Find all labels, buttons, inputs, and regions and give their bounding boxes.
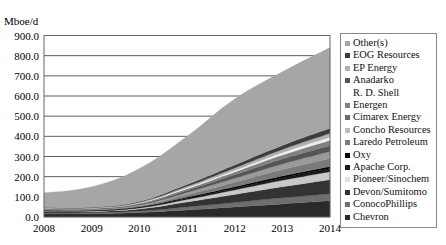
legend-swatch-icon xyxy=(345,215,350,220)
legend-label: Devon/Sumitomo xyxy=(353,186,427,198)
x-axis-ticks: 2008200920102011201220132014 xyxy=(33,222,342,234)
legend-swatch-icon xyxy=(345,78,350,83)
y-tick-label: 800.0 xyxy=(14,50,39,62)
legend-label: Other(s) xyxy=(353,37,388,49)
y-tick-label: 300.0 xyxy=(14,151,39,163)
x-tick-label: 2008 xyxy=(33,222,56,234)
y-tick-label: 500.0 xyxy=(14,110,39,122)
legend-swatch-icon xyxy=(345,190,350,195)
legend-item: Chevron xyxy=(345,211,436,223)
legend-swatch-icon xyxy=(345,140,350,145)
legend-swatch-icon xyxy=(345,53,350,58)
y-tick-label: 400.0 xyxy=(14,130,39,142)
legend-item: Other(s) xyxy=(345,37,436,49)
legend-item: Laredo Petroleum xyxy=(345,136,436,148)
legend-swatch-icon xyxy=(345,202,350,207)
area-series xyxy=(44,48,330,217)
x-tick-label: 2013 xyxy=(271,222,294,234)
legend-item: Apache Corp. xyxy=(345,161,436,173)
legend-item: Oxy xyxy=(345,149,436,161)
legend-item: EP Energy xyxy=(345,62,436,74)
legend-item: EOG Resources xyxy=(345,49,436,61)
legend-swatch-icon xyxy=(345,66,350,71)
legend-label: EOG Resources xyxy=(353,49,420,61)
x-tick-label: 2011 xyxy=(176,222,198,234)
legend-swatch-icon xyxy=(345,153,350,158)
legend-item: Concho Resources xyxy=(345,124,436,136)
legend-swatch-icon xyxy=(345,165,350,170)
legend-swatch-icon xyxy=(345,103,350,108)
y-tick-label: 900.0 xyxy=(14,30,39,42)
x-tick-label: 2012 xyxy=(224,222,246,234)
legend-label: Laredo Petroleum xyxy=(353,136,428,148)
legend-item: Devon/Sumitomo xyxy=(345,186,436,198)
legend-label: Concho Resources xyxy=(353,124,431,136)
legend-label: Apache Corp. xyxy=(353,161,411,173)
y-tick-label: 600.0 xyxy=(14,90,39,102)
y-axis-label: Mboe/d xyxy=(4,15,39,27)
legend-label: Chevron xyxy=(353,211,389,223)
legend-item: ConocoPhillips xyxy=(345,198,436,210)
legend-swatch-icon xyxy=(345,128,350,133)
y-tick-label: 200.0 xyxy=(14,171,39,183)
legend-swatch-icon xyxy=(345,41,350,46)
legend-label: Pioneer/Sinochem xyxy=(353,173,429,185)
legend: Other(s)EOG ResourcesEP EnergyAnadarkoR.… xyxy=(340,33,437,228)
y-tick-label: 100.0 xyxy=(14,191,39,203)
legend-swatch-icon xyxy=(345,115,350,120)
legend-label: Oxy xyxy=(353,149,371,161)
legend-swatch-icon xyxy=(345,177,350,182)
y-tick-label: 700.0 xyxy=(14,70,39,82)
legend-item: Energen xyxy=(345,99,436,111)
legend-label: Cimarex Energy xyxy=(353,111,421,123)
x-tick-label: 2014 xyxy=(319,222,342,234)
legend-label: ConocoPhillips xyxy=(353,198,417,210)
legend-item: Pioneer/Sinochem xyxy=(345,173,436,185)
legend-label: AnadarkoR. D. Shell xyxy=(353,74,399,99)
legend-item: Cimarex Energy xyxy=(345,111,436,123)
legend-item: AnadarkoR. D. Shell xyxy=(345,74,436,99)
x-tick-label: 2009 xyxy=(81,222,104,234)
legend-label: Energen xyxy=(353,99,387,111)
x-tick-label: 2010 xyxy=(128,222,151,234)
y-axis-ticks: 0.0100.0200.0300.0400.0500.0600.0700.080… xyxy=(14,30,39,224)
legend-label: EP Energy xyxy=(353,62,397,74)
